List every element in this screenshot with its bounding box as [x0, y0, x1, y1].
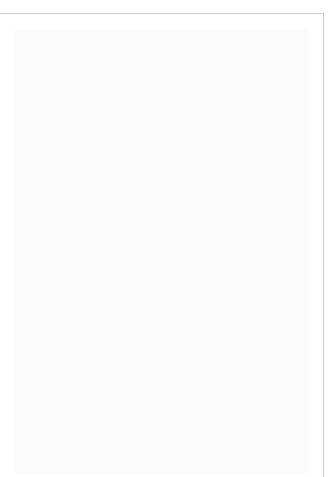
bottom-chart — [29, 323, 312, 348]
